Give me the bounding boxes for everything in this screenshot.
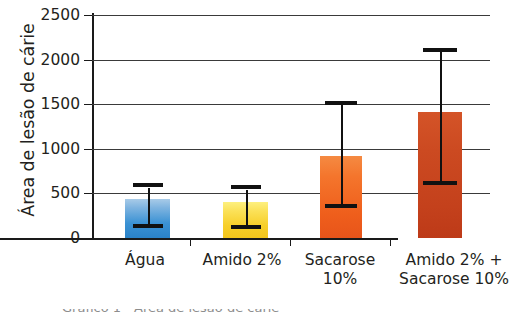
gridline-2000	[92, 60, 490, 61]
x-label-line: Sacarose	[294, 251, 386, 270]
error-bar-cap-lower-agua	[133, 224, 163, 228]
x-label-sacarose: Sacarose 10%	[294, 251, 386, 289]
caption-text: Gráfico 1 - Área de lesão de cárie	[62, 309, 279, 315]
y-tick-mark	[84, 104, 92, 105]
y-tick-mark	[84, 193, 92, 194]
y-tick-label: 500	[28, 184, 80, 202]
x-label-agua: Água	[100, 251, 190, 270]
error-bar-stem-agua	[148, 188, 150, 226]
y-tick-mark	[84, 149, 92, 150]
x-tick-mark	[190, 238, 191, 246]
error-bar-cap-upper-sacarose	[325, 101, 357, 105]
error-bar-cap-lower-sacarose	[325, 204, 357, 208]
y-tick-label: 1000	[28, 140, 80, 158]
x-tick-mark	[390, 238, 391, 246]
bar-chart: Área de lesão de cárie 2500 2000 1500 10…	[0, 0, 527, 317]
caption-strip: Gráfico 1 - Área de lesão de cárie	[0, 309, 527, 317]
gridline-1500	[92, 104, 490, 105]
error-bar-stem-amido-sacarose	[440, 50, 442, 182]
plot-area	[92, 15, 490, 238]
error-bar-stem-sacarose	[341, 103, 343, 205]
y-tick-label: 2000	[28, 51, 80, 69]
x-label-line: Sacarose 10%	[388, 270, 520, 289]
x-tick-mark	[290, 238, 291, 246]
x-label-amido: Amido 2%	[196, 251, 288, 270]
error-bar-cap-lower-amido-sacarose	[423, 181, 457, 185]
x-label-line: Água	[100, 251, 190, 270]
y-axis-tick-labels: 2500 2000 1500 1000 500 0	[22, 0, 80, 317]
error-bar-cap-upper-amido	[231, 185, 261, 189]
y-tick-label: 2500	[28, 6, 80, 24]
y-tick-mark	[84, 15, 92, 16]
y-tick-mark	[84, 60, 92, 61]
error-bar-cap-upper-amido-sacarose	[423, 48, 457, 52]
x-label-line: Amido 2%	[196, 251, 288, 270]
gridline-2500	[92, 15, 490, 16]
error-bar-stem-amido	[246, 190, 248, 225]
error-bar-cap-upper-agua	[133, 183, 163, 187]
x-axis-line	[0, 238, 398, 240]
error-bar-cap-lower-amido	[231, 225, 261, 229]
y-tick-label: 1500	[28, 95, 80, 113]
x-label-amido-sacarose: Amido 2% + Sacarose 10%	[388, 251, 520, 289]
x-label-line: Amido 2% +	[388, 251, 520, 270]
x-label-line: 10%	[294, 270, 386, 289]
